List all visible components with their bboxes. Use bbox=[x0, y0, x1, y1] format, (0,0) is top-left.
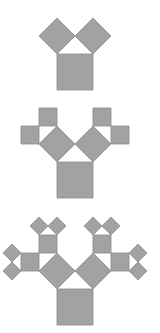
square-level-1 bbox=[39, 126, 75, 162]
square-level-0 bbox=[57, 54, 93, 90]
square-level-2 bbox=[39, 235, 57, 253]
square-level-3 bbox=[129, 244, 147, 262]
square-level-1 bbox=[39, 253, 75, 289]
square-level-2 bbox=[39, 108, 57, 126]
square-level-3 bbox=[102, 217, 120, 235]
square-level-3 bbox=[84, 217, 102, 235]
square-level-1 bbox=[39, 18, 75, 54]
square-level-2 bbox=[21, 126, 39, 144]
square-level-3 bbox=[129, 262, 147, 280]
square-level-0 bbox=[57, 162, 93, 198]
square-level-1 bbox=[75, 18, 111, 54]
tree-stage-2 bbox=[21, 108, 129, 198]
square-level-2 bbox=[111, 126, 129, 144]
square-level-2 bbox=[111, 253, 129, 271]
square-level-3 bbox=[3, 262, 21, 280]
tree-stage-1 bbox=[39, 18, 111, 90]
square-level-3 bbox=[48, 217, 66, 235]
square-level-3 bbox=[3, 244, 21, 262]
square-level-1 bbox=[75, 126, 111, 162]
square-level-3 bbox=[30, 217, 48, 235]
square-level-2 bbox=[93, 108, 111, 126]
pythagoras-tree-diagram bbox=[0, 0, 160, 333]
tree-stage-3 bbox=[3, 217, 147, 325]
square-level-0 bbox=[57, 289, 93, 325]
square-level-2 bbox=[21, 253, 39, 271]
square-level-1 bbox=[75, 253, 111, 289]
square-level-2 bbox=[93, 235, 111, 253]
